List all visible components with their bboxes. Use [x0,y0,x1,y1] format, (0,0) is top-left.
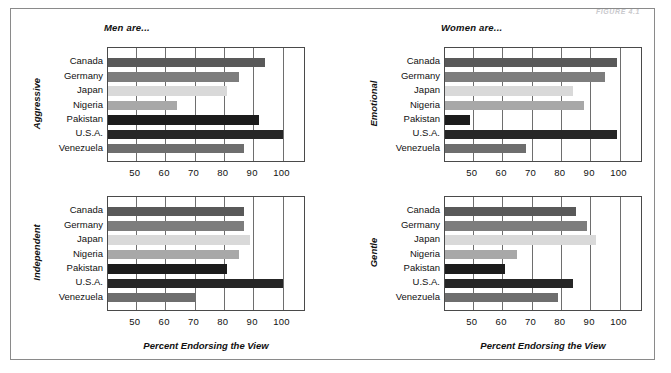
tick-label: 90 [247,167,258,178]
category-axis-aggressive: CanadaGermanyJapanNigeriaPakistanU.S.A.V… [0,47,103,162]
category-label: Canada [407,56,440,66]
tick-label: 50 [466,316,477,327]
bar-gentle-germany [445,221,587,231]
category-label: Japan [77,85,103,95]
bar-gentle-canada [445,207,576,217]
tick-label: 80 [554,316,565,327]
tick-label: 90 [584,316,595,327]
category-label: Germany [401,220,440,230]
tick-label: 100 [610,316,627,327]
bar-emotional-usa [445,130,617,140]
tick-label: 100 [610,167,627,178]
bar-emotional-canada [445,58,617,68]
tick-label: 70 [188,316,199,327]
category-label: U.S.A. [76,277,103,287]
bar-independent-germany [108,221,244,231]
bar-aggressive-nigeria [108,101,177,111]
category-label: Pakistan [404,263,440,273]
bar-gentle-usa [445,279,573,289]
bar-independent-usa [108,279,283,289]
tick-label: 90 [584,167,595,178]
bar-emotional-nigeria [445,101,584,111]
category-label: Canada [70,205,103,215]
tick-label: 60 [496,316,507,327]
gridline-100 [620,48,621,161]
tick-label: 60 [159,167,170,178]
tick-label: 100 [273,167,290,178]
category-label: Pakistan [67,263,103,273]
category-axis-independent: CanadaGermanyJapanNigeriaPakistanU.S.A.V… [0,196,103,311]
category-label: Japan [414,234,440,244]
category-label: Japan [414,85,440,95]
bar-gentle-japan [445,235,596,245]
category-label: U.S.A. [413,128,440,138]
tick-label: 80 [217,167,228,178]
plot-area-aggressive [107,47,305,162]
value-axis-aggressive: 5060708090100 [107,167,305,181]
tick-label: 90 [247,316,258,327]
category-label: U.S.A. [76,128,103,138]
category-label: Germany [64,220,103,230]
category-axis-gentle: CanadaGermanyJapanNigeriaPakistanU.S.A.V… [320,196,440,311]
bar-aggressive-japan [108,86,227,96]
axis-title-gentle: Percent Endorsing the View [444,340,642,351]
value-axis-independent: 5060708090100 [107,316,305,330]
category-label: Pakistan [404,114,440,124]
gridline-100 [283,197,284,310]
category-label: Nigeria [410,100,440,110]
category-label: Venezuela [396,292,440,302]
category-label: Germany [401,71,440,81]
bar-aggressive-germany [108,72,239,82]
plot-area-independent [107,196,305,311]
plot-area-emotional [444,47,642,162]
bar-emotional-germany [445,72,605,82]
category-label: Venezuela [396,143,440,153]
value-axis-gentle: 5060708090100 [444,316,642,330]
panel-title-emotional: Women are... [441,22,502,33]
tick-label: 80 [554,167,565,178]
bar-emotional-venezuela [445,144,526,154]
tick-label: 70 [188,167,199,178]
tick-label: 100 [273,316,290,327]
category-label: U.S.A. [413,277,440,287]
plot-area-gentle [444,196,642,311]
gridline-100 [283,48,284,161]
bar-emotional-japan [445,86,573,96]
gridline-90 [590,197,591,310]
bar-gentle-nigeria [445,250,517,260]
category-label: Japan [77,234,103,244]
tick-label: 70 [525,167,536,178]
bar-emotional-pakistan [445,115,470,125]
category-label: Nigeria [73,100,103,110]
bar-aggressive-pakistan [108,115,259,125]
bar-aggressive-canada [108,58,265,68]
bar-gentle-pakistan [445,264,505,274]
gridline-90 [253,197,254,310]
bar-independent-venezuela [108,293,195,303]
category-label: Germany [64,71,103,81]
figure-caption: FIGURE 4.1 [596,8,640,15]
category-label: Venezuela [59,292,103,302]
category-label: Venezuela [59,143,103,153]
bar-aggressive-venezuela [108,144,244,154]
tick-label: 60 [159,316,170,327]
bar-independent-japan [108,235,250,245]
category-axis-emotional: CanadaGermanyJapanNigeriaPakistanU.S.A.V… [320,47,440,162]
axis-title-independent: Percent Endorsing the View [107,340,305,351]
value-axis-emotional: 5060708090100 [444,167,642,181]
panel-title-aggressive: Men are... [104,22,150,33]
bar-aggressive-usa [108,130,283,140]
bar-independent-nigeria [108,250,239,260]
tick-label: 50 [129,316,140,327]
tick-label: 50 [129,167,140,178]
category-label: Canada [407,205,440,215]
bar-gentle-venezuela [445,293,558,303]
bar-independent-pakistan [108,264,227,274]
category-label: Nigeria [410,249,440,259]
gridline-100 [620,197,621,310]
category-label: Pakistan [67,114,103,124]
category-label: Nigeria [73,249,103,259]
tick-label: 50 [466,167,477,178]
bar-independent-canada [108,207,244,217]
tick-label: 80 [217,316,228,327]
